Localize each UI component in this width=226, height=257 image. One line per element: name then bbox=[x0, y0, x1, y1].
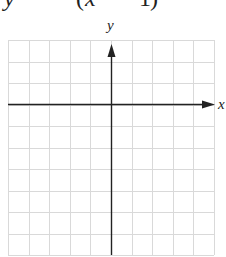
x-axis-arrow-icon bbox=[202, 101, 215, 109]
y-axis-label: y bbox=[105, 17, 114, 33]
coordinate-grid: x y bbox=[0, 0, 226, 257]
y-axis-arrow-icon bbox=[108, 44, 116, 57]
x-axis-label: x bbox=[217, 96, 225, 112]
